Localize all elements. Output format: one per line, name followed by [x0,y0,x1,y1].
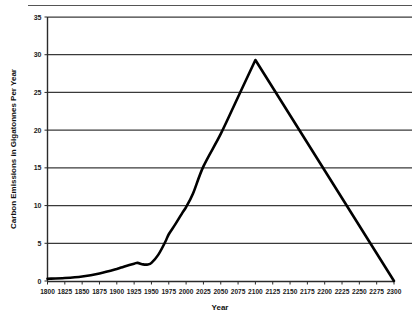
y-tick-label: 25 [34,89,42,96]
y-tick-label: 20 [34,127,42,134]
x-tick-label: 2275 [369,288,384,295]
y-tick-labels-group: 05101520253035 [34,14,48,285]
x-tick-label: 1950 [144,288,159,295]
emissions-line-chart: 05101520253035 1800182518501875190019251… [0,0,412,324]
y-tick-label: 10 [34,202,42,209]
chart-page: 05101520253035 1800182518501875190019251… [0,0,412,324]
y-axis-title: Carbon Emissions in Gigatonnes Per Year [9,69,18,229]
x-tick-label: 1850 [75,288,90,295]
x-tick-label: 2300 [387,288,402,295]
x-tick-label: 2050 [213,288,228,295]
x-tick-label: 1875 [92,288,107,295]
x-tick-label: 2100 [248,288,263,295]
x-tick-label: 1975 [161,288,176,295]
emissions-data-line [48,60,395,281]
x-tick-label: 1825 [57,288,72,295]
x-tick-label: 2225 [335,288,350,295]
x-tick-label: 2025 [196,288,211,295]
x-tick-label: 1925 [127,288,142,295]
y-tick-label: 5 [38,240,42,247]
x-tick-label: 1800 [40,288,55,295]
y-tick-label: 35 [34,14,42,21]
x-tick-label: 2175 [300,288,315,295]
x-tick-label: 2000 [179,288,194,295]
x-tick-label: 2075 [231,288,246,295]
y-tick-label: 0 [38,278,42,285]
x-tick-labels-group: 1800182518501875190019251950197520002025… [40,288,402,295]
x-tick-label: 2250 [352,288,367,295]
x-tick-label: 2200 [317,288,332,295]
x-tick-label: 2125 [265,288,280,295]
x-axis-title: Year [212,303,229,312]
y-tick-label: 30 [34,51,42,58]
y-tick-label: 15 [34,164,42,171]
x-tick-label: 1900 [109,288,124,295]
x-tick-label: 2150 [283,288,298,295]
gridlines-group [48,17,412,243]
